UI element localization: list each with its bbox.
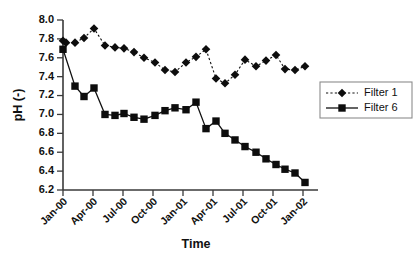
data-point-marker	[291, 66, 300, 75]
data-point-marker	[281, 65, 290, 74]
x-tick-label-group: Jan-00Apr-00Jul-00Oct-00Jan-01Apr-01Jul-…	[37, 195, 309, 227]
y-tick-label: 7.6	[39, 51, 54, 63]
data-point-marker	[161, 66, 170, 75]
data-point-marker	[151, 58, 160, 67]
y-tick-label: 7.0	[39, 107, 54, 119]
data-point-marker	[272, 51, 281, 60]
x-axis-group: Jan-00Apr-00Jul-00Oct-00Jan-01Apr-01Jul-…	[37, 190, 318, 251]
series-filter-1	[59, 24, 310, 87]
chart-legend: Filter 1Filter 6	[320, 82, 412, 118]
y-tick-group	[57, 20, 63, 190]
data-point-marker	[120, 110, 127, 117]
data-series-group	[59, 24, 310, 186]
data-point-marker	[301, 62, 310, 71]
y-tick-label: 8.0	[39, 13, 54, 25]
data-point-marker	[212, 74, 221, 83]
data-point-marker	[202, 125, 209, 132]
x-tick-label: Jan-01	[157, 195, 189, 227]
data-point-marker	[90, 84, 97, 91]
data-point-marker	[182, 58, 191, 67]
data-point-marker	[59, 46, 66, 53]
data-point-marker	[161, 107, 168, 114]
series-filter-6	[59, 46, 308, 187]
data-point-marker	[120, 44, 129, 53]
y-axis-title: pH (-)	[11, 89, 25, 122]
data-point-marker	[192, 53, 201, 62]
data-point-marker	[111, 43, 120, 52]
y-tick-label: 6.2	[39, 183, 54, 195]
data-point-marker	[262, 56, 271, 65]
data-point-marker	[140, 115, 147, 122]
y-tick-label: 7.8	[39, 32, 54, 44]
data-point-marker	[171, 104, 178, 111]
data-point-marker	[231, 136, 238, 143]
chart-canvas: 6.26.46.66.87.07.27.47.67.88.0 pH (-) Ja…	[0, 0, 418, 262]
data-point-marker	[151, 112, 158, 119]
y-tick-label: 6.8	[39, 126, 54, 138]
x-tick-label: Jan-02	[277, 195, 309, 227]
y-tick-label-group: 6.26.46.66.87.07.27.47.67.88.0	[39, 13, 55, 195]
x-tick-group	[63, 190, 303, 196]
data-point-marker	[71, 82, 78, 89]
data-point-marker	[202, 45, 211, 54]
data-point-marker	[241, 55, 250, 64]
data-point-marker	[281, 166, 288, 173]
data-point-marker	[71, 38, 80, 47]
data-point-marker	[252, 149, 259, 156]
data-point-marker	[241, 143, 248, 150]
x-tick-label: Jan-00	[37, 195, 69, 227]
y-tick-label: 6.6	[39, 145, 54, 157]
data-point-marker	[101, 111, 108, 118]
y-axis-group: 6.26.46.66.87.07.27.47.67.88.0 pH (-)	[11, 13, 63, 195]
data-point-marker	[291, 169, 298, 176]
x-tick-label: Jul-01	[219, 195, 249, 225]
x-tick-label: Jul-00	[99, 195, 129, 225]
data-point-marker	[221, 130, 228, 137]
legend-label: Filter 1	[364, 86, 398, 98]
data-point-marker	[252, 62, 261, 71]
y-tick-label: 6.4	[39, 164, 55, 176]
ph-time-series-chart: 6.26.46.66.87.07.27.47.67.88.0 pH (-) Ja…	[0, 0, 418, 262]
data-point-marker	[101, 41, 110, 50]
series-line	[63, 29, 305, 84]
data-point-marker	[130, 114, 137, 121]
data-point-marker	[130, 48, 139, 57]
legend-label: Filter 6	[364, 101, 398, 113]
y-tick-label: 7.2	[39, 88, 54, 100]
data-point-marker	[111, 112, 118, 119]
data-point-marker	[182, 106, 189, 113]
x-tick-label: Oct-00	[128, 195, 160, 227]
y-tick-label: 7.4	[39, 70, 55, 82]
x-tick-label: Apr-00	[67, 195, 99, 227]
data-point-marker	[212, 117, 219, 124]
data-point-marker	[272, 161, 279, 168]
legend-marker-square-icon	[338, 104, 345, 111]
data-point-marker	[301, 179, 308, 186]
data-point-marker	[192, 98, 199, 105]
x-axis-title: Time	[182, 237, 211, 251]
data-point-marker	[262, 155, 269, 162]
data-point-marker	[140, 53, 149, 62]
data-point-marker	[80, 93, 87, 100]
x-tick-label: Apr-01	[187, 195, 219, 227]
x-tick-label: Oct-01	[248, 195, 280, 227]
